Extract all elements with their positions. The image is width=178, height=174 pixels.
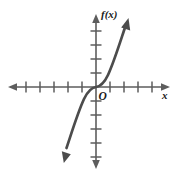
- y-axis-bottom-arrowhead: [92, 160, 100, 169]
- y-axis-label: f(x): [101, 8, 118, 21]
- curve-upper-arrowhead: [121, 18, 130, 31]
- x-axis-label: x: [161, 89, 168, 101]
- x-axis-left-arrowhead: [8, 83, 17, 91]
- curve-lower-arrowhead: [62, 151, 71, 163]
- graph-figure: f(x) x O: [0, 0, 178, 174]
- y-axis-top-arrowhead: [92, 14, 100, 23]
- coordinate-plane: f(x) x O: [0, 0, 178, 174]
- origin-label: O: [99, 90, 107, 102]
